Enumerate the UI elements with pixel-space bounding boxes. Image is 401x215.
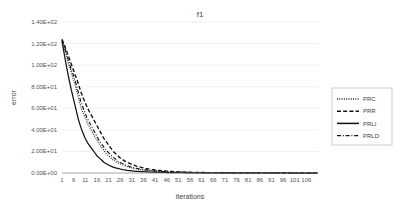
x-tick-label: 61 [198, 177, 205, 183]
legend-box [332, 88, 392, 145]
legend-label-prli: PRLI [363, 121, 377, 127]
x-tick-label: 91 [268, 177, 275, 183]
x-tick-label: 86 [256, 177, 263, 183]
x-tick-label: 21 [105, 177, 112, 183]
x-tick-label: 66 [210, 177, 217, 183]
chart-legend: PRCPRRPRLIPRLD [332, 88, 392, 145]
y-tick-label: 1.20E+02 [31, 41, 58, 47]
x-tick-label: 31 [128, 177, 135, 183]
x-tick-label: 41 [152, 177, 159, 183]
y-tick-label: 2.00E+01 [31, 148, 58, 154]
x-tick-label: 71 [222, 177, 229, 183]
x-tick-label: 51 [175, 177, 182, 183]
x-tick-label: 96 [280, 177, 287, 183]
x-tick-label: 81 [245, 177, 252, 183]
x-tick-label: 101 [290, 177, 301, 183]
legend-label-prc: PRC [363, 96, 376, 102]
y-tick-label: 8.00E+01 [31, 84, 58, 90]
y-axis-title: error [10, 89, 17, 104]
legend-label-prr: PRR [363, 108, 376, 114]
x-tick-label: 106 [301, 177, 312, 183]
y-tick-label: 6.00E+01 [31, 105, 58, 111]
x-tick-label: 76 [233, 177, 240, 183]
x-tick-label: 46 [163, 177, 170, 183]
y-tick-label: 1.40E+02 [31, 19, 58, 25]
legend-label-prld: PRLD [363, 133, 380, 139]
y-tick-label: 4.00E+01 [31, 127, 58, 133]
chart-title: f1 [197, 10, 204, 19]
x-tick-label: 16 [94, 177, 101, 183]
y-tick-label: 0.00E+00 [31, 170, 58, 176]
line-chart: f1 0.00E+002.00E+014.00E+016.00E+018.00E… [0, 0, 401, 215]
x-tick-label: 26 [117, 177, 124, 183]
chart-container: f1 0.00E+002.00E+014.00E+016.00E+018.00E… [0, 0, 401, 215]
x-axis-title: iterations [176, 193, 205, 200]
x-axis-tick-labels: 1611162126313641465156616671768186919610… [60, 177, 312, 183]
x-tick-label: 11 [82, 177, 89, 183]
y-tick-label: 1.00E+02 [31, 62, 58, 68]
x-tick-label: 56 [187, 177, 194, 183]
x-tick-label: 36 [140, 177, 147, 183]
